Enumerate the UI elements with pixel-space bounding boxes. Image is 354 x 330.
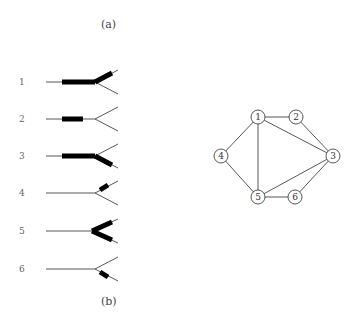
graph-node-label: 3 [330,151,336,161]
thick-segment-upper-branch [95,73,112,82]
graph-edge-6-3 [295,156,333,197]
graph-node-6: 6 [288,190,302,204]
graph-node-1: 1 [251,110,265,124]
graph-edge-2-3 [296,117,333,156]
thick-segment-lower-branch [95,156,112,165]
branch-lower [95,82,118,94]
branch-upper [95,144,118,156]
branch-lower [95,119,118,131]
graph-node-label: 2 [293,112,299,122]
graph-node-label: 5 [255,192,261,202]
graph-node-3: 3 [326,149,340,163]
graph-node-label: 1 [255,112,261,122]
thick-segment-lower-branch-short [100,272,108,277]
diagram-canvas: 123456 [0,0,354,330]
branch-upper [95,107,118,119]
graph-node-2: 2 [289,110,303,124]
graph-node-label: 4 [218,151,224,161]
graph-node-4: 4 [214,149,228,163]
graph-edge-1-4 [221,117,258,156]
graph-edge-4-5 [221,156,258,197]
graph-node-label: 6 [292,192,298,202]
branch-upper [95,257,118,269]
graph-node-5: 5 [251,190,265,204]
thick-segment-upper-branch-short [100,185,108,190]
thick-segment-lower-branch [92,231,112,240]
branch-lower [95,193,118,205]
